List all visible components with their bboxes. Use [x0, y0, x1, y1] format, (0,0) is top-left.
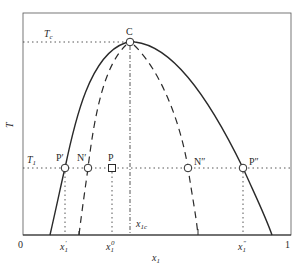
x1-zero-label: x10 [105, 239, 115, 254]
n-double-prime-label: N″ [194, 156, 205, 167]
tc-label: Tc [44, 28, 54, 41]
x-tick-1: 1 [285, 239, 290, 250]
p-prime-label: P′ [56, 152, 64, 163]
critical-point-label: C [126, 26, 133, 37]
phase-diagram: C Tc T1 P′ N′ P N″ P″ x1c 0 1 x1′ x10 x1… [0, 0, 299, 272]
n-prime-label: N′ [77, 152, 86, 163]
point-p [109, 165, 116, 172]
x1-prime-label: x1′ [59, 239, 68, 254]
x-axis-title: x1 [151, 252, 160, 265]
p-double-prime-label: P″ [249, 156, 259, 167]
x-tick-0: 0 [18, 239, 23, 250]
x1c-label: x1c [135, 218, 148, 231]
point-p-double-prime [239, 164, 247, 172]
y-axis-title: T [4, 121, 15, 128]
t1-label: T1 [27, 154, 36, 167]
point-n-prime [84, 164, 92, 172]
plot-frame [23, 13, 291, 235]
spinodal-curve-left [79, 45, 126, 235]
p-label: P [108, 152, 114, 163]
x1-double-prime-label: x1″ [237, 239, 246, 254]
point-n-double-prime [184, 164, 192, 172]
point-p-prime [61, 164, 69, 172]
spinodal-curve-right [134, 45, 198, 235]
critical-point-marker [126, 38, 134, 46]
